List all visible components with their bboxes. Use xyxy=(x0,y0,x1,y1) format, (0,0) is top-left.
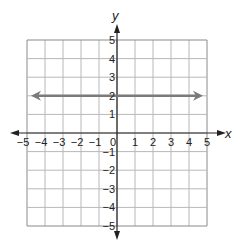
y-tick-label: −1 xyxy=(102,146,115,158)
y-tick-label: −5 xyxy=(102,220,115,232)
y-tick-label: 5 xyxy=(109,34,115,46)
x-tick-label: 4 xyxy=(186,136,192,148)
y-tick-label: −3 xyxy=(102,183,115,195)
y-tick-label: 4 xyxy=(109,53,115,65)
y-tick-label: 3 xyxy=(109,71,115,83)
x-axis-label: x xyxy=(224,126,232,141)
x-tick-label: −1 xyxy=(89,136,102,148)
x-tick-label: 1 xyxy=(132,136,138,148)
x-tick-label: −2 xyxy=(71,136,84,148)
y-tick-label: 2 xyxy=(109,90,115,102)
x-tick-label: 3 xyxy=(168,136,174,148)
x-tick-label: −4 xyxy=(35,136,48,148)
y-tick-label: −2 xyxy=(102,164,115,176)
coordinate-plane: −5−4−3−2−1012345 −5−4−3−2−112345 x y xyxy=(0,0,243,248)
y-tick-label: 1 xyxy=(109,108,115,120)
x-tick-label: −5 xyxy=(17,136,30,148)
x-tick-label: 2 xyxy=(150,136,156,148)
y-axis-up-arrow-icon xyxy=(114,24,120,33)
y-axis-down-arrow-icon xyxy=(114,231,120,240)
y-tick-label: −4 xyxy=(102,201,115,213)
x-tick-label: −3 xyxy=(53,136,66,148)
y-axis-label: y xyxy=(111,8,120,23)
x-tick-label: 5 xyxy=(204,136,210,148)
